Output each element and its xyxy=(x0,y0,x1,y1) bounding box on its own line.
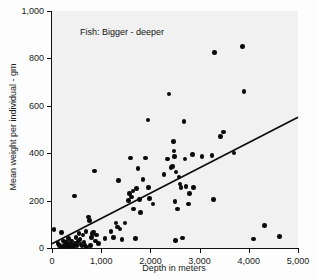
scatter-point xyxy=(84,229,89,234)
scatter-point xyxy=(88,243,93,248)
scatter-point xyxy=(138,210,143,215)
scatter-point xyxy=(277,234,282,239)
scatter-point xyxy=(52,227,57,232)
y-axis-tick-label: 600 xyxy=(29,101,44,111)
x-axis-tick xyxy=(52,248,53,253)
scatter-point xyxy=(221,130,226,135)
scatter-point xyxy=(191,185,196,190)
scatter-point xyxy=(172,154,177,159)
scatter-point xyxy=(111,235,116,240)
scatter-point xyxy=(133,236,138,241)
scatter-point xyxy=(170,164,175,169)
y-axis-tick-label: 0 xyxy=(39,243,44,253)
y-axis-tick xyxy=(47,11,52,12)
scatter-point xyxy=(187,191,192,196)
scatter-point xyxy=(59,230,64,235)
scatter-point xyxy=(131,207,136,212)
x-axis-tick xyxy=(101,248,102,253)
scatter-point xyxy=(171,139,176,144)
scatter-point xyxy=(94,233,99,238)
chart-title: Fish: Bigger - deeper xyxy=(80,27,164,37)
x-axis-label: Depth in meters xyxy=(51,263,297,273)
scatter-point xyxy=(210,153,215,158)
x-axis-tick xyxy=(298,248,299,253)
scatter-point xyxy=(116,178,121,183)
scatter-point xyxy=(175,207,180,212)
x-axis-tick xyxy=(249,248,250,253)
scatter-point xyxy=(262,223,267,228)
scatter-point xyxy=(92,169,97,174)
y-axis-tick xyxy=(47,153,52,154)
scatter-point xyxy=(146,185,151,190)
scatter-point xyxy=(180,236,185,241)
scatter-point xyxy=(211,197,216,202)
y-axis-tick-label: 1,000 xyxy=(21,6,44,16)
y-axis-tick-label: 400 xyxy=(29,148,44,158)
scatter-point xyxy=(120,237,125,242)
chart-root: Mean weight per individual - gm Fish: Bi… xyxy=(0,0,317,279)
y-axis-tick-label: 800 xyxy=(29,53,44,63)
scatter-point xyxy=(179,185,184,190)
scatter-point xyxy=(137,197,142,202)
scatter-point xyxy=(212,50,217,55)
trendline xyxy=(52,11,298,248)
scatter-point xyxy=(96,241,101,246)
y-axis-tick xyxy=(47,106,52,107)
y-axis-tick-label: 200 xyxy=(29,196,44,206)
scatter-point xyxy=(240,44,245,49)
scatter-point xyxy=(242,89,247,94)
y-axis-tick xyxy=(47,201,52,202)
scatter-point xyxy=(109,229,114,234)
y-axis-label: Mean weight per individual - gm xyxy=(8,17,18,237)
scatter-point xyxy=(141,177,146,182)
scatter-point xyxy=(147,196,152,201)
scatter-point xyxy=(184,184,189,189)
plot-canvas xyxy=(52,11,298,248)
scatter-point xyxy=(143,156,148,161)
y-axis-tick xyxy=(47,58,52,59)
x-axis-tick xyxy=(150,248,151,253)
scatter-point xyxy=(173,238,178,243)
scatter-point xyxy=(190,152,195,157)
x-axis-tick xyxy=(200,248,201,253)
scatter-point xyxy=(134,186,139,191)
scatter-point xyxy=(182,119,187,124)
scatter-point xyxy=(87,218,92,223)
plot-area: Fish: Bigger - deeper 02004006008001,000… xyxy=(51,11,298,249)
scatter-point xyxy=(218,134,223,139)
scatter-point xyxy=(72,194,77,199)
